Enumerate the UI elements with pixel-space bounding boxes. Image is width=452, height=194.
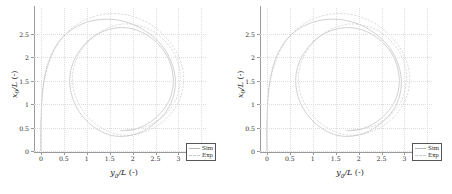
gridline-horizontal <box>34 57 206 58</box>
y-tick-label: 0.5 <box>239 124 255 131</box>
y-tick-label: 0.5 <box>13 124 29 131</box>
legend-item-exp: Exp <box>415 152 439 159</box>
two-panel-trajectory-figure: Sim Exp y0/L (-) x0/L (-) 00.511.522.533… <box>0 0 452 194</box>
legend-label-sim: Sim <box>202 145 213 152</box>
gridline-vertical <box>427 8 428 151</box>
x-tick-label: 1 <box>311 155 315 162</box>
x-axis-rest: /L <box>344 168 352 177</box>
gridline-horizontal <box>260 151 432 152</box>
x-axis-unit: (-) <box>129 168 138 177</box>
gridline-vertical <box>313 8 314 151</box>
gridline-vertical <box>64 8 65 151</box>
y-tick <box>257 151 260 152</box>
legend-label-exp: Exp <box>202 152 213 159</box>
gridline-vertical <box>156 8 157 151</box>
x-tick-label: 0 <box>39 155 43 162</box>
plot-panel-left: Sim Exp y0/L (-) x0/L (-) 00.511.522.533… <box>0 0 226 194</box>
x-tick-label: 1.5 <box>331 155 341 162</box>
gridline-horizontal <box>260 34 432 35</box>
y-axis-subscript: 0 <box>240 90 246 94</box>
gridline-horizontal <box>34 128 206 129</box>
y-tick-label: 2 <box>239 54 255 61</box>
gridline-vertical <box>201 8 202 151</box>
gridline-horizontal <box>34 151 206 152</box>
gridline-vertical <box>267 8 268 151</box>
y-tick <box>31 81 34 82</box>
legend-left: Sim Exp <box>186 143 216 161</box>
gridline-vertical <box>404 8 405 151</box>
x-tick-label: 0.5 <box>59 155 69 162</box>
gridline-horizontal <box>34 34 206 35</box>
y-tick <box>257 104 260 105</box>
y-tick <box>31 128 34 129</box>
y-tick-label: 1.5 <box>239 77 255 84</box>
gridline-vertical <box>382 8 383 151</box>
y-axis-symbol: x <box>236 94 245 99</box>
legend-swatch-exp-icon <box>189 155 200 156</box>
y-tick <box>257 34 260 35</box>
x-tick-label: 2.5 <box>151 155 161 162</box>
y-tick-label: 2.5 <box>13 30 29 37</box>
y-tick-label: 2.5 <box>239 30 255 37</box>
y-tick <box>31 104 34 105</box>
gridline-vertical <box>178 8 179 151</box>
gridline-vertical <box>110 8 111 151</box>
gridline-horizontal <box>34 104 206 105</box>
y-tick <box>257 57 260 58</box>
x-axis-title: y0/L (-) <box>260 168 440 179</box>
legend-swatch-sim-icon <box>189 148 200 149</box>
y-tick-label: 0 <box>13 148 29 155</box>
x-tick-label: 0 <box>265 155 269 162</box>
x-axis-rest: /L <box>118 168 126 177</box>
gridline-horizontal <box>34 81 206 82</box>
gridline-horizontal <box>260 128 432 129</box>
legend-item-exp: Exp <box>189 152 213 159</box>
gridline-vertical <box>41 8 42 151</box>
gridline-horizontal <box>260 81 432 82</box>
y-tick <box>31 34 34 35</box>
legend-label-sim: Sim <box>428 145 439 152</box>
y-tick-label: 1 <box>13 101 29 108</box>
gridline-vertical <box>359 8 360 151</box>
gridline-vertical <box>87 8 88 151</box>
y-tick <box>31 57 34 58</box>
y-tick <box>31 151 34 152</box>
legend-item-sim: Sim <box>415 145 439 152</box>
legend-right: Sim Exp <box>412 143 442 161</box>
legend-swatch-exp-icon <box>415 155 426 156</box>
x-tick-label: 3 <box>403 155 407 162</box>
x-tick-label: 0.5 <box>285 155 295 162</box>
legend-label-exp: Exp <box>428 152 439 159</box>
x-tick-label: 2.5 <box>377 155 387 162</box>
trajectory-curves-left <box>34 8 206 151</box>
legend-item-sim: Sim <box>189 145 213 152</box>
legend-swatch-sim-icon <box>415 148 426 149</box>
x-tick-label: 1 <box>85 155 89 162</box>
plot-panel-right: Sim Exp y0/L (-) x0/L (-) 00.511.522.533… <box>226 0 452 194</box>
x-axis-unit: (-) <box>355 168 364 177</box>
x-tick-label: 2 <box>357 155 361 162</box>
gridline-horizontal <box>260 57 432 58</box>
gridline-vertical <box>133 8 134 151</box>
y-tick-label: 1 <box>239 101 255 108</box>
y-tick <box>257 128 260 129</box>
gridline-vertical <box>336 8 337 151</box>
y-axis-symbol: x <box>10 94 19 99</box>
x-tick-label: 3 <box>177 155 181 162</box>
y-tick <box>257 81 260 82</box>
y-tick-label: 2 <box>13 54 29 61</box>
y-axis-subscript: 0 <box>14 90 20 94</box>
x-tick-label: 1.5 <box>105 155 115 162</box>
y-tick-label: 0 <box>239 148 255 155</box>
trajectory-curves-right <box>260 8 432 151</box>
x-tick-label: 2 <box>131 155 135 162</box>
x-axis-title: y0/L (-) <box>34 168 214 179</box>
gridline-vertical <box>290 8 291 151</box>
gridline-horizontal <box>260 104 432 105</box>
y-tick-label: 1.5 <box>13 77 29 84</box>
